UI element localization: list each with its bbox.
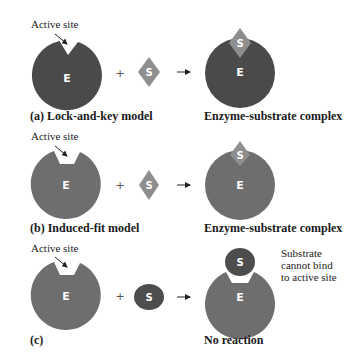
complex-enzyme-letter: E xyxy=(236,291,244,304)
cannot-bind-note: Substrate cannot bind to active site xyxy=(281,247,337,283)
substrate-letter: S xyxy=(145,292,152,303)
plus-sign: + xyxy=(115,67,124,80)
bound-substrate-letter: S xyxy=(236,150,243,161)
caption-lock-and-key: (a) Lock-and-key model xyxy=(30,109,153,124)
note-line-3: to active site xyxy=(281,271,337,283)
active-site-pointer-arrow xyxy=(55,257,67,267)
note-line-2: cannot bind xyxy=(281,259,337,271)
enzyme-complex-shape xyxy=(205,272,275,339)
complex-enzyme-letter: E xyxy=(236,66,244,79)
row-b-induced-fit: E + S S E xyxy=(31,141,275,220)
substrate-letter: S xyxy=(145,180,152,191)
plus-sign: + xyxy=(115,179,124,192)
substrate-letter: S xyxy=(145,67,152,78)
caption-induced-fit: (b) Induced-fit model xyxy=(30,221,139,236)
active-site-label-c: Active site xyxy=(31,242,78,254)
active-site-label-b: Active site xyxy=(31,130,78,142)
enzyme-models-diagram: E + S S E E + S S E E + S S E xyxy=(0,0,354,354)
enzyme-letter: E xyxy=(62,290,70,303)
enzyme-letter: E xyxy=(62,179,70,192)
row-a-lock-and-key: E + S S E xyxy=(32,28,275,110)
row-c-no-reaction: E + S S E xyxy=(31,248,275,339)
complex-enzyme-letter: E xyxy=(236,179,244,192)
caption-complex-a: Enzyme-substrate complex xyxy=(204,109,342,124)
plus-sign: + xyxy=(115,290,124,303)
active-site-label-a: Active site xyxy=(31,18,78,30)
note-line-1: Substrate xyxy=(281,247,337,259)
caption-c: (c) xyxy=(30,333,43,348)
caption-no-reaction: No reaction xyxy=(204,333,263,348)
enzyme-letter: E xyxy=(63,72,71,85)
active-site-pointer-arrow xyxy=(55,146,67,156)
unbound-substrate-letter: S xyxy=(236,257,243,268)
bound-substrate-letter: S xyxy=(236,38,243,49)
caption-complex-b: Enzyme-substrate complex xyxy=(204,221,342,236)
